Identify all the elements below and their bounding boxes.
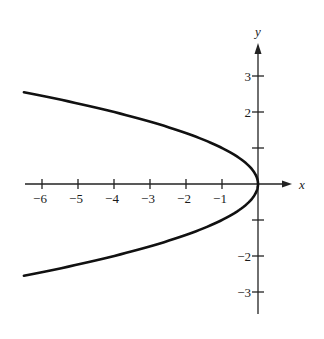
y-tick-label: 2 (245, 105, 252, 120)
x-tick-label: −4 (105, 191, 119, 206)
x-axis-label: x (298, 177, 305, 192)
y-axis-label: y (253, 24, 261, 39)
x-tick-label: −1 (213, 191, 227, 206)
x-tick-label: −2 (177, 191, 191, 206)
x-tick-label: −6 (33, 191, 47, 206)
x-axis-arrow-icon (282, 181, 292, 188)
y-tick-label: −3 (237, 285, 251, 300)
y-tick-label: −2 (237, 249, 251, 264)
axes: x y (25, 24, 305, 314)
y-tick-label: 3 (245, 69, 252, 84)
x-tick-label: −5 (69, 191, 83, 206)
y-axis-arrow-icon (255, 43, 262, 54)
parabola-chart: x y −6−5−4−3−2−1 32−2−3 (0, 0, 324, 339)
x-tick-label: −3 (141, 191, 155, 206)
x-ticks: −6−5−4−3−2−1 (33, 179, 227, 206)
